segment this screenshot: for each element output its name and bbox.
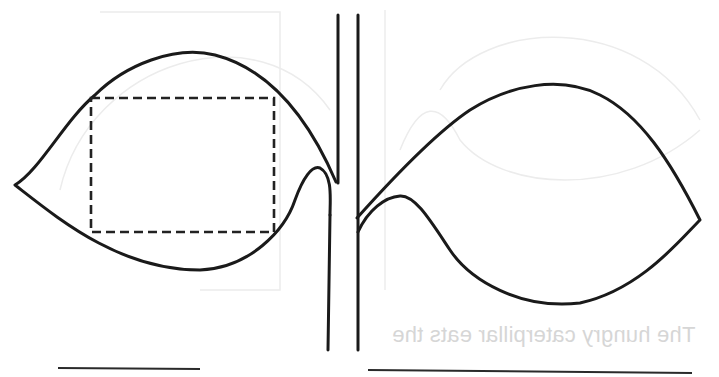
bleed-through-shapes [60,10,700,290]
leaf-worksheet-drawing [0,0,719,377]
writing-line-left [58,368,200,369]
bleed-through-text: The hungry caterpillar eats the [392,322,695,348]
right-leaf-outline [357,84,700,304]
writing-line-right [368,370,692,373]
dashed-cut-box [91,98,274,232]
left-leaf-outline [15,52,336,270]
